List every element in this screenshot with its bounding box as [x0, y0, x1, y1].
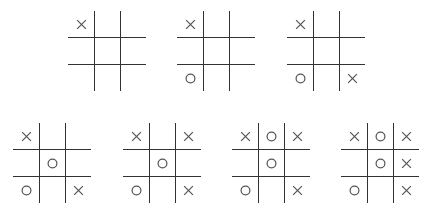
board-cell [393, 123, 419, 149]
board-cell [65, 177, 91, 203]
board-cell [68, 11, 94, 37]
x-mark-icon [185, 19, 196, 30]
board-cell [367, 177, 393, 203]
board-cell [94, 65, 120, 91]
board-cell [287, 38, 313, 64]
board-cell [341, 123, 367, 149]
board-cell [13, 177, 39, 203]
board-cell [65, 123, 91, 149]
board-cell [313, 38, 339, 64]
x-mark-icon [240, 131, 251, 142]
board-cell [313, 65, 339, 91]
board-cell [123, 150, 149, 176]
board-cell [284, 123, 310, 149]
board-cell [120, 65, 146, 91]
board-cell [229, 11, 255, 37]
board-cell [232, 150, 258, 176]
board-cell [149, 150, 175, 176]
board-cell [229, 38, 255, 64]
board-cell [367, 123, 393, 149]
x-mark-icon [401, 158, 412, 169]
board-cell [203, 11, 229, 37]
board-cell [339, 38, 365, 64]
board-cell [13, 123, 39, 149]
o-mark-icon [266, 131, 277, 142]
board-cell [339, 11, 365, 37]
board-cell [39, 177, 65, 203]
x-mark-icon [21, 131, 32, 142]
o-mark-icon [349, 185, 360, 196]
board-cell [393, 177, 419, 203]
x-mark-icon [401, 131, 412, 142]
board-cell [39, 150, 65, 176]
o-mark-icon [157, 158, 168, 169]
tic-tac-toe-board-step-1 [68, 11, 146, 91]
board-cell [232, 177, 258, 203]
x-mark-icon [183, 185, 194, 196]
board-cell [393, 150, 419, 176]
board-cell [258, 150, 284, 176]
x-mark-icon [292, 185, 303, 196]
tic-tac-toe-board-step-2 [177, 11, 255, 91]
o-mark-icon [295, 73, 306, 84]
o-mark-icon [185, 73, 196, 84]
board-cell [94, 11, 120, 37]
board-cell [39, 123, 65, 149]
board-cell [203, 38, 229, 64]
board-cell [13, 150, 39, 176]
x-mark-icon [183, 131, 194, 142]
x-mark-icon [347, 73, 358, 84]
board-cell [284, 150, 310, 176]
board-cell [175, 177, 201, 203]
o-mark-icon [240, 185, 251, 196]
board-cell [341, 177, 367, 203]
o-mark-icon [47, 158, 58, 169]
board-cell [232, 123, 258, 149]
board-cell [367, 150, 393, 176]
board-cell [175, 150, 201, 176]
board-cell [313, 11, 339, 37]
board-cell [123, 123, 149, 149]
board-cell [65, 150, 91, 176]
board-cell [123, 177, 149, 203]
x-mark-icon [401, 185, 412, 196]
x-mark-icon [295, 19, 306, 30]
o-mark-icon [21, 185, 32, 196]
board-cell [177, 38, 203, 64]
board-cell [177, 65, 203, 91]
o-mark-icon [375, 158, 386, 169]
x-mark-icon [349, 131, 360, 142]
board-cell [339, 65, 365, 91]
x-mark-icon [73, 185, 84, 196]
board-cell [177, 11, 203, 37]
board-cell [258, 123, 284, 149]
board-cell [68, 38, 94, 64]
tic-tac-toe-board-step-5 [123, 123, 201, 203]
board-cell [175, 123, 201, 149]
board-cell [341, 150, 367, 176]
board-cell [258, 177, 284, 203]
x-mark-icon [292, 131, 303, 142]
board-cell [120, 38, 146, 64]
tic-tac-toe-board-step-7 [341, 123, 419, 203]
board-cell [94, 38, 120, 64]
tic-tac-toe-board-step-3 [287, 11, 365, 91]
x-mark-icon [131, 131, 142, 142]
board-cell [68, 65, 94, 91]
x-mark-icon [76, 19, 87, 30]
board-cell [229, 65, 255, 91]
board-cell [120, 11, 146, 37]
board-cell [287, 11, 313, 37]
o-mark-icon [131, 185, 142, 196]
board-cell [287, 65, 313, 91]
board-cell [203, 65, 229, 91]
tic-tac-toe-board-step-6 [232, 123, 310, 203]
board-cell [149, 177, 175, 203]
board-cell [284, 177, 310, 203]
tic-tac-toe-board-step-4 [13, 123, 91, 203]
o-mark-icon [266, 158, 277, 169]
o-mark-icon [375, 131, 386, 142]
board-cell [149, 123, 175, 149]
